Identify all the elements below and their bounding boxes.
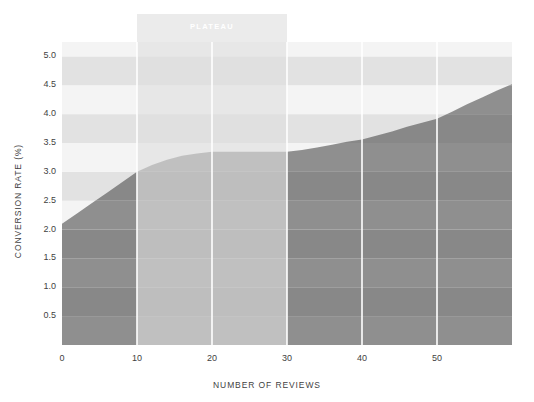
x-tick-label: 40 <box>347 353 377 363</box>
y-tick-label: 4.0 <box>30 108 56 118</box>
x-tick-label: 30 <box>272 353 302 363</box>
y-tick-label: 2.5 <box>30 195 56 205</box>
x-tick-label: 50 <box>422 353 452 363</box>
y-tick-label: 0.5 <box>30 310 56 320</box>
y-tick-label: 5.0 <box>30 50 56 60</box>
y-tick-label: 1.5 <box>30 252 56 262</box>
plateau-annotation-label: PLATEAU <box>137 22 287 31</box>
x-tick-label: 10 <box>122 353 152 363</box>
y-tick-label: 2.0 <box>30 224 56 234</box>
chart-plot-canvas <box>0 0 534 402</box>
y-tick-label: 4.5 <box>30 79 56 89</box>
x-tick-label: 20 <box>197 353 227 363</box>
y-tick-label: 1.0 <box>30 281 56 291</box>
y-tick-label: 3.5 <box>30 137 56 147</box>
x-tick-label: 0 <box>47 353 77 363</box>
conversion-rate-area-chart: CONVERSION RATE (%) NUMBER OF REVIEWS 0.… <box>0 0 534 402</box>
x-axis-title: NUMBER OF REVIEWS <box>0 380 534 390</box>
y-axis-title: CONVERSION RATE (%) <box>13 126 23 276</box>
y-tick-label: 3.0 <box>30 166 56 176</box>
